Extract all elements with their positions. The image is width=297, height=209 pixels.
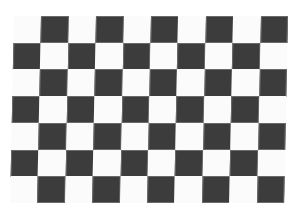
dark-square [96,16,124,43]
light-square [202,150,230,177]
dark-square [150,16,178,43]
dark-square [12,96,40,123]
dark-square [232,43,260,70]
dark-square [122,43,150,70]
dark-square [175,150,203,177]
dark-square [230,150,258,177]
dark-square [231,96,259,123]
light-square [93,150,121,177]
light-square [230,123,258,150]
light-square [204,96,232,123]
light-square [95,43,123,70]
light-square [205,43,233,70]
light-square [65,176,93,203]
light-square [68,16,96,43]
dark-square [259,69,287,96]
dark-square [147,176,175,203]
dark-square [176,96,204,123]
dark-square [41,16,69,43]
dark-square [65,150,93,177]
dark-square [149,69,177,96]
light-square [178,16,206,43]
dark-square [94,69,122,96]
dark-square [93,123,121,150]
light-square [258,96,286,123]
dark-square [68,43,96,70]
dark-square [204,69,232,96]
light-square [177,69,205,96]
light-square [121,123,149,150]
light-square [66,123,94,150]
light-square [229,176,257,203]
dark-square [205,16,233,43]
light-square [257,150,285,177]
light-square [39,96,67,123]
dark-square [148,123,176,150]
checkerboard [10,16,288,203]
dark-square [67,96,95,123]
light-square [150,43,178,70]
dark-square [260,16,288,43]
light-square [67,69,95,96]
light-square [12,69,40,96]
dark-square [121,96,149,123]
dark-square [120,150,148,177]
light-square [149,96,177,123]
light-square [231,69,259,96]
light-square [176,123,204,150]
light-square [40,43,68,70]
dark-square [13,43,41,70]
dark-square [203,123,231,150]
dark-square [37,176,65,203]
dark-square [202,176,230,203]
light-square [13,16,41,43]
light-square [10,176,38,203]
light-square [38,150,66,177]
light-square [174,176,202,203]
dark-square [177,43,205,70]
light-square [259,43,287,70]
dark-square [257,176,285,203]
dark-square [11,150,39,177]
dark-square [39,123,67,150]
dark-square [258,123,286,150]
dark-square [92,176,120,203]
light-square [122,69,150,96]
light-square [120,176,148,203]
light-square [94,96,122,123]
light-square [123,16,151,43]
light-square [11,123,39,150]
light-square [233,16,261,43]
light-square [148,150,176,177]
dark-square [40,69,68,96]
